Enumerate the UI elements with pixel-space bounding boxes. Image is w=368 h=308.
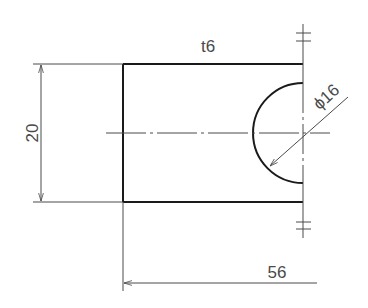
diameter-leader: ϕ16 (270, 80, 348, 166)
thickness-label: t6 (201, 37, 215, 56)
length-dim-label: 56 (268, 263, 287, 282)
diameter-label: ϕ16 (309, 80, 343, 113)
technical-drawing: 20 56 t6 ϕ16 (0, 0, 368, 308)
right-edge-break-line (296, 24, 311, 238)
length-dimension: 56 (123, 202, 317, 291)
height-dim-label: 20 (23, 124, 42, 143)
